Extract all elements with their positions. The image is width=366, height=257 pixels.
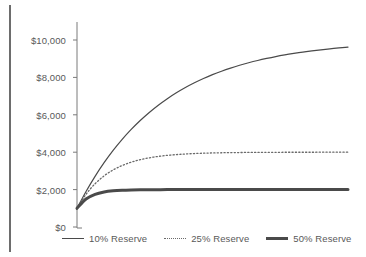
legend-label-10-reserve: 10% Reserve <box>89 233 147 244</box>
legend-swatch-solid-thin-icon <box>62 235 84 242</box>
chart-page: $10,000 $8,000 $6,000 $4,000 $2,000 $0 1… <box>0 0 366 257</box>
series-group <box>77 47 348 208</box>
y-tick-label-10000: $10,000 <box>12 35 66 46</box>
legend-item-25-reserve[interactable]: 25% Reserve <box>164 233 249 244</box>
legend-item-10-reserve[interactable]: 10% Reserve <box>62 233 147 244</box>
series-line-25-reserve <box>77 152 348 208</box>
legend-swatch-dotted-icon <box>164 235 186 242</box>
y-axis <box>73 22 82 228</box>
y-tick-label-2000: $2,000 <box>12 185 66 196</box>
legend-item-50-reserve[interactable]: 50% Reserve <box>266 233 351 244</box>
legend-label-25-reserve: 25% Reserve <box>191 233 249 244</box>
legend-swatch-solid-thick-icon <box>266 235 288 242</box>
y-tick-label-8000: $8,000 <box>12 72 66 83</box>
series-line-10-reserve <box>77 47 348 208</box>
y-tick-label-0: $0 <box>12 222 66 233</box>
series-line-50-reserve <box>77 190 348 209</box>
chart-legend: 10% Reserve 25% Reserve 50% Reserve <box>62 230 362 246</box>
y-tick-label-6000: $6,000 <box>12 110 66 121</box>
y-tick-label-4000: $4,000 <box>12 147 66 158</box>
legend-label-50-reserve: 50% Reserve <box>293 233 351 244</box>
